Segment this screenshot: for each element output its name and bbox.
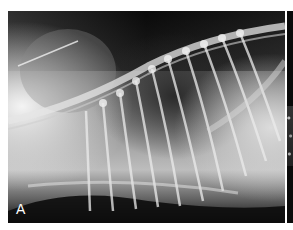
radiograph-panel-b — [287, 11, 293, 223]
panel-label: A — [16, 201, 25, 217]
radiograph-image — [8, 11, 285, 223]
radiograph-panel-a: A — [8, 11, 285, 223]
radiograph-detail — [287, 106, 293, 166]
